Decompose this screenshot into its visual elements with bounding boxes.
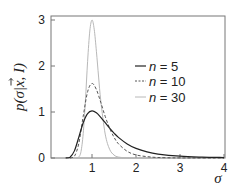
data-curves [66, 20, 224, 158]
curve-n5 [66, 111, 224, 158]
y-tick-label: 0 [38, 151, 45, 165]
x-tick-label: 3 [177, 161, 184, 175]
plot-frame [51, 16, 225, 158]
curve-n10 [70, 83, 224, 158]
legend-label: n = 30 [149, 90, 186, 105]
legend-label: n = 5 [149, 59, 178, 74]
y-tick-label: 2 [38, 59, 45, 73]
y-axis-label-main: p(σ| [11, 87, 28, 112]
y-tick-label: 3 [38, 13, 45, 27]
y-axis-label: p(σ|x, I) [11, 63, 28, 112]
chart: 1234 0123 n = 5n = 10n = 30 σ p(σ|x, I) [0, 0, 238, 196]
x-tick-label: 2 [133, 161, 140, 175]
y-axis-ticks: 0123 [38, 13, 55, 165]
svg-text:p(σ|x, I): p(σ|x, I) [11, 63, 28, 112]
legend: n = 5n = 10n = 30 [135, 59, 186, 105]
legend-label: n = 10 [149, 74, 186, 89]
y-tick-label: 1 [38, 105, 45, 119]
y-axis-label-rest: , I) [11, 63, 28, 81]
x-axis-label: σ [214, 170, 222, 186]
x-tick-label: 1 [89, 161, 96, 175]
x-tick-label: 4 [221, 161, 228, 175]
